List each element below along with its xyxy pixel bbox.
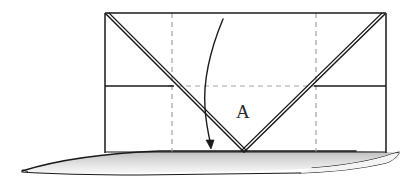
fold-v-group [106, 13, 385, 152]
motion-curve [205, 19, 223, 146]
motion-arrowhead [206, 140, 214, 149]
diagram-svg [0, 0, 413, 186]
vertex-label-a: A [236, 102, 250, 121]
fold-right-diagonal-outer [244, 14, 385, 152]
ground-plane-group [22, 151, 399, 175]
fold-left-diagonal-inner [109, 13, 247, 151]
figure-canvas: A [0, 0, 413, 186]
construction-lines-group [168, 13, 320, 152]
fold-left-diagonal-outer [106, 14, 244, 152]
motion-arrow-group [205, 19, 223, 149]
fold-right-diagonal-inner [241, 13, 382, 151]
panel-outline-group [105, 13, 386, 153]
